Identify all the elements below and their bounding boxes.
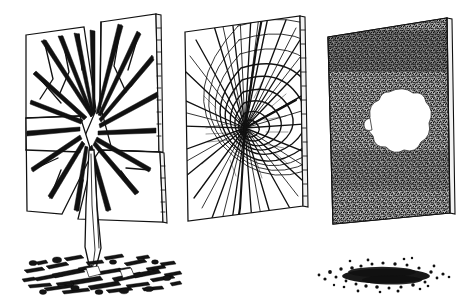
glass-fracture-figure: Annealed glass — large radial wedge crac… (0, 0, 463, 308)
figure-canvas (0, 0, 463, 308)
tempered-glass-panel (320, 10, 460, 230)
